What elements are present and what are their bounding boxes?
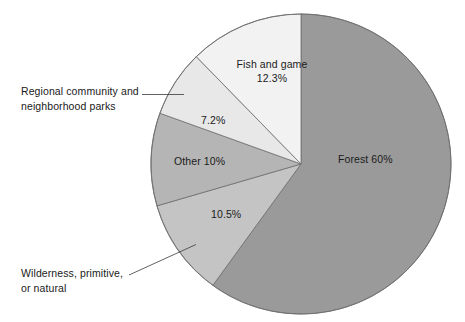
callout-label-wilderness: Wilderness, primitive, or natural: [21, 266, 123, 296]
slice-label-wilderness-value: 10.5%: [211, 208, 241, 222]
callout-label-regional-parks: Regional community and neighborhood park…: [21, 84, 139, 114]
callout-regional-line-1: Regional community and: [21, 84, 139, 99]
slice-label-fish-and-game: Fish and game 12.3%: [228, 58, 316, 86]
slice-label-other: Other 10%: [174, 155, 225, 169]
callout-regional-line-2: neighborhood parks: [21, 99, 139, 114]
pie-chart-figure: Fish and game 12.3% Forest 60% 7.2% Othe…: [0, 0, 465, 322]
slice-label-fish-and-game-value: 12.3%: [257, 72, 287, 84]
slice-label-fish-and-game-name: Fish and game: [237, 58, 308, 70]
callout-wilderness-line-2: or natural: [21, 281, 123, 296]
callout-wilderness-line-1: Wilderness, primitive,: [21, 266, 123, 281]
slice-label-regional-value: 7.2%: [201, 114, 225, 128]
slice-label-forest: Forest 60%: [338, 153, 393, 167]
